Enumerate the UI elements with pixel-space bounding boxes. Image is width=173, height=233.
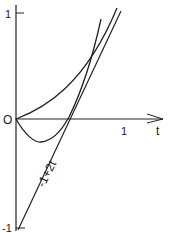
line-label: -1+2t [34,158,59,190]
curve-upper [16,8,117,119]
x-tick-label-1: 1 [121,125,127,137]
diagram: 1 O -1 1 t -1+2t [0,0,173,233]
y-tick-label-1: 1 [5,8,11,20]
line-minus1-plus-2t [18,11,121,230]
origin-label: O [3,113,12,127]
x-axis-label: t [156,124,160,138]
y-tick-label-minus-1: -1 [2,222,12,233]
